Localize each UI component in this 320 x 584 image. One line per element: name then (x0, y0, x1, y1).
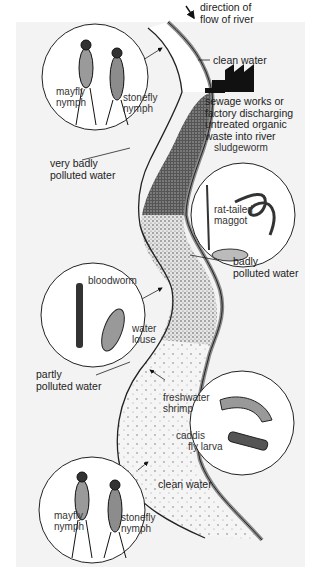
flow-arrow (186, 6, 194, 18)
label-mayfly-nymph-upstream: mayfly nymph (56, 86, 86, 108)
label-bloodworm: bloodworm (88, 275, 137, 286)
label-mayfly-nymph-downstream: mayfly nymph (54, 510, 84, 532)
zone-label-clean-upstream: clean water (213, 55, 267, 67)
label-stonefly-nymph-upstream: stonefly nymph (123, 92, 157, 114)
pollution-source-label: sewage works or factory discharging untr… (205, 96, 293, 142)
outfall-pipe (205, 88, 225, 93)
label-water-louse: water louse (132, 323, 156, 345)
label-rat-tailed-maggot: rat-tailed maggot (214, 204, 253, 226)
river-diagram (0, 0, 320, 584)
label-sludgeworm: sludgeworm (214, 142, 268, 153)
circle-shrimp (190, 371, 294, 475)
factory-icon (212, 64, 254, 92)
label-freshwater-shrimp: freshwater shrimp (163, 392, 210, 414)
label-caddis-fly-larva: caddis fly larva (176, 430, 222, 452)
flow-direction-label: direction of flow of river (200, 2, 254, 25)
zone-label-badly-polluted: badly polluted water (233, 256, 298, 279)
circle-upstream-nymphs (42, 24, 148, 130)
bloodworm-icon (76, 283, 83, 348)
zone-label-very-badly-polluted: very badly polluted water (50, 158, 115, 181)
label-stonefly-nymph-downstream: stonefly nymph (121, 512, 155, 534)
zone-label-clean-downstream: clean water (158, 479, 212, 491)
zone-label-partly-polluted: partly polluted water (36, 369, 101, 392)
